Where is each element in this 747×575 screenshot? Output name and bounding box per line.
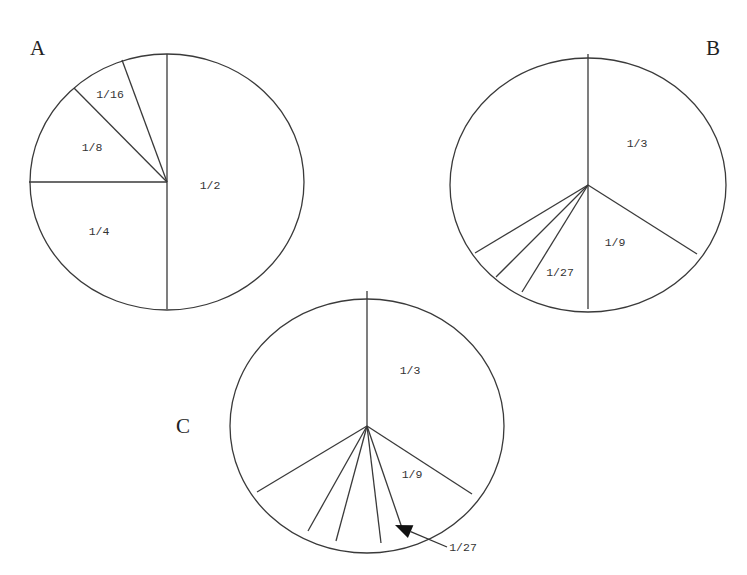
pie-panel-a: 1/21/41/81/16A <box>29 36 304 310</box>
fraction-label: 1/9 <box>402 468 423 481</box>
figure-canvas: 1/21/41/81/16A1/31/91/27B1/31/9C1/27 <box>0 0 747 575</box>
pie-panel-b: 1/31/91/27B <box>450 36 726 312</box>
fraction-label: 1/4 <box>89 225 110 238</box>
fraction-label: 1/8 <box>82 141 103 154</box>
fraction-label: 1/3 <box>627 137 648 150</box>
callout-label: 1/27 <box>449 541 477 554</box>
fraction-label: 1/9 <box>605 236 626 249</box>
fraction-label: 1/27 <box>546 266 574 279</box>
pie-panel-c: 1/31/9C1/27 <box>176 291 504 554</box>
panel-label: A <box>30 36 46 60</box>
fraction-label: 1/16 <box>96 88 124 101</box>
panel-label: B <box>706 36 720 60</box>
panel-label: C <box>176 414 190 438</box>
fraction-label: 1/2 <box>200 179 221 192</box>
fraction-label: 1/3 <box>400 364 421 377</box>
